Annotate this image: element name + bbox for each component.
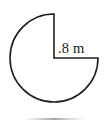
geometry-figure: .8 m: [0, 0, 108, 120]
radius-label: .8 m: [58, 40, 85, 56]
geometry-diagram-svg: .8 m: [0, 0, 108, 120]
three-quarter-circle-outline: [10, 14, 98, 102]
